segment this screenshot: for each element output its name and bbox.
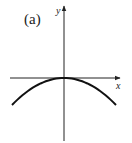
parabola-figure: (a) y x <box>0 0 132 143</box>
panel-label: (a) <box>24 11 41 28</box>
y-axis-label: y <box>55 5 61 16</box>
x-axis-label: x <box>115 80 121 91</box>
